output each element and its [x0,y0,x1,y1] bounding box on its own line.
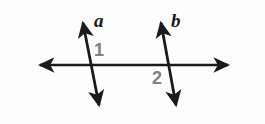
geometry-canvas [0,0,265,124]
line-b-label: b [171,11,181,30]
line-a-label: a [94,11,104,30]
geometry-figure: a b 1 2 [0,0,265,124]
angle-2-label: 2 [152,69,162,87]
angle-1-label: 1 [94,41,104,59]
